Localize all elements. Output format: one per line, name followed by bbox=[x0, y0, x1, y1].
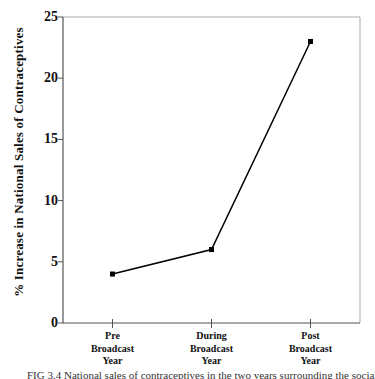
figure-caption: FIG 3.4 National sales of contraceptives… bbox=[27, 369, 375, 379]
data-point-marker bbox=[308, 39, 313, 44]
data-line bbox=[113, 41, 311, 274]
chart-figure: % Increase in National Sales of Contrace… bbox=[0, 0, 375, 379]
data-point-marker bbox=[209, 247, 214, 252]
plot-area bbox=[0, 0, 375, 379]
data-point-marker bbox=[110, 272, 115, 277]
